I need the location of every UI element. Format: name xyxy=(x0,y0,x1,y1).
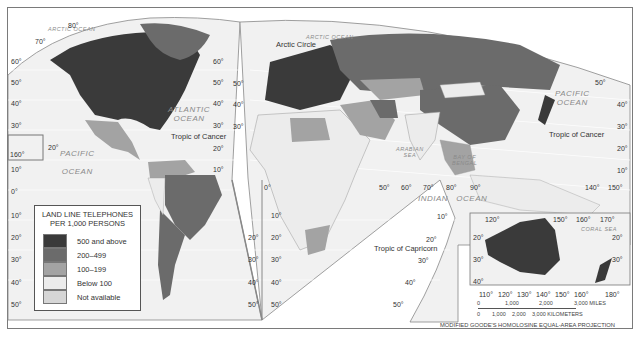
legend-title-line2: PER 1,000 PERSONS xyxy=(50,219,125,228)
legend: LAND LINE TELEPHONES PER 1,000 PERSONS 5… xyxy=(34,205,141,311)
lon-label: 0° xyxy=(264,184,271,191)
pacific-w-line2: OCEAN xyxy=(62,167,93,176)
inset-lat-label: 40° xyxy=(473,278,484,285)
inset-lon-label: 160° xyxy=(574,291,588,298)
pacific-e-line2: OCEAN xyxy=(557,98,588,107)
arabian-sea-label: ARABIANSEA xyxy=(396,146,424,158)
legend-item: 100–199 xyxy=(43,262,140,276)
scale-km-2000: 2,000 xyxy=(512,311,526,317)
inset-lon-label: 170° xyxy=(600,216,614,223)
coral-sea-label: CORAL SEA xyxy=(581,226,617,232)
lat-label: 30° xyxy=(248,256,259,263)
lat-label: 20° xyxy=(617,145,628,152)
lat-label: 30° xyxy=(418,257,429,264)
lat-label: 50° xyxy=(11,79,22,86)
lat-label: 20° xyxy=(271,234,282,241)
lat-label: 50° xyxy=(271,301,282,308)
lat-label: 40° xyxy=(11,279,22,286)
lon-label-160: 160° xyxy=(10,151,24,158)
tropic-cancer-west-label: Tropic of Cancer xyxy=(171,132,226,141)
lat-label: 40° xyxy=(271,279,282,286)
legend-item: 500 and above xyxy=(43,234,140,248)
legend-label: 100–199 xyxy=(77,265,106,274)
lat-label: 50° xyxy=(393,301,404,308)
legend-swatch xyxy=(43,262,67,276)
scale-miles-2000: 2,000 xyxy=(539,300,553,306)
lat-label: 30° xyxy=(213,122,224,129)
legend-swatch xyxy=(43,276,67,290)
lon-label: 70° xyxy=(423,184,434,191)
inset-lat-label: 20° xyxy=(612,234,623,241)
legend-swatch xyxy=(43,234,67,248)
lat-label-20-pacific: 20° xyxy=(48,144,59,151)
lat-label-70: 70° xyxy=(35,38,46,45)
inset-lon-label: 120° xyxy=(498,291,512,298)
legend-label: 200–499 xyxy=(77,251,106,260)
lat-label: 0° xyxy=(11,188,18,195)
mongolia xyxy=(440,82,485,98)
inset-lon-label: 150° xyxy=(553,216,567,223)
arabian-line2: SEA xyxy=(404,152,417,158)
legend-swatch xyxy=(43,248,67,262)
pacific-ocean-east-label: PACIFICOCEAN xyxy=(555,90,589,108)
atlantic-line1: ATLANTIC xyxy=(168,105,210,114)
pacific-e-line1: PACIFIC xyxy=(555,89,589,98)
lat-label: 10° xyxy=(213,166,224,173)
inset-lon-label: 120° xyxy=(485,216,499,223)
pacific-w-line1: PACIFIC xyxy=(60,149,94,158)
atlantic-ocean-label: ATLANTICOCEAN xyxy=(168,106,210,124)
lat-label: 10° xyxy=(11,166,22,173)
legend-label: Below 100 xyxy=(77,279,112,288)
indian-line2: OCEAN xyxy=(456,194,487,203)
lat-label: 30° xyxy=(11,122,22,129)
lat-label: 30° xyxy=(271,256,282,263)
inset-lat-label: 20° xyxy=(473,234,484,241)
arctic-circle-label: Arctic Circle xyxy=(276,40,316,49)
lat-label: 60° xyxy=(11,58,22,65)
inset-lon-label: 130° xyxy=(517,291,531,298)
lat-label: 40° xyxy=(11,100,22,107)
lon-label: 60° xyxy=(401,184,412,191)
bay-of-bengal-label: BAY OFBENGAL xyxy=(452,154,477,166)
lat-label: 30° xyxy=(233,123,244,130)
indian-line1: INDIAN xyxy=(418,194,448,203)
inset-lon-label: 140° xyxy=(536,291,550,298)
legend-label: 500 and above xyxy=(77,237,127,246)
lat-label: 10° xyxy=(11,212,22,219)
atlantic-line2: OCEAN xyxy=(174,114,205,123)
lat-label: 50° xyxy=(248,301,259,308)
inset-lon-label: 180° xyxy=(605,291,619,298)
legend-item: Not available xyxy=(43,290,140,304)
scale-km-0: 0 xyxy=(477,311,480,317)
scale-miles-3000: 3,000 MILES xyxy=(574,300,606,306)
lat-label-80: 80° xyxy=(68,22,79,29)
lat-label: 20° xyxy=(213,145,224,152)
lon-label: 90° xyxy=(470,184,481,191)
lat-label: 50° xyxy=(213,79,224,86)
bengal-line2: BENGAL xyxy=(452,160,477,166)
scale-line xyxy=(478,308,576,309)
lat-label: 20° xyxy=(248,234,259,241)
lon-label: 50° xyxy=(379,184,390,191)
scale-km-1000: 1,000 xyxy=(492,311,506,317)
lat-label: 50° xyxy=(11,301,22,308)
lat-label: 40° xyxy=(405,279,416,286)
north-africa xyxy=(290,118,330,142)
lat-label: 40° xyxy=(233,101,244,108)
lat-label: 40° xyxy=(248,279,259,286)
legend-item: Below 100 xyxy=(43,276,140,290)
lat-label: 30° xyxy=(11,256,22,263)
lon-label: 150° xyxy=(608,184,622,191)
lat-label: 20° xyxy=(11,234,22,241)
scale-km-3000: 3,000 KILOMETERS xyxy=(532,311,583,317)
inset-lon-label: 110° xyxy=(479,291,493,298)
lon-label: 80° xyxy=(446,184,457,191)
tropic-cancer-east-label: Tropic of Cancer xyxy=(549,130,604,139)
lat-label: 40° xyxy=(617,101,628,108)
lat-label: 20° xyxy=(426,236,437,243)
scale-miles-1000: 1,000 xyxy=(505,300,519,306)
inset-lon-label: 160° xyxy=(576,216,590,223)
lon-label: 140° xyxy=(585,184,599,191)
pacific-ocean-west-label: PACIFICOCEAN xyxy=(60,150,94,176)
inset-lat-label: 30° xyxy=(473,256,484,263)
